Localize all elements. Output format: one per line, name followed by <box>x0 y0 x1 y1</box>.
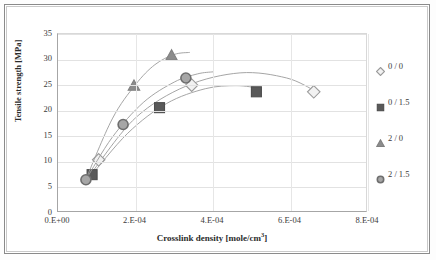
gridline-vertical <box>291 34 292 211</box>
y-axis-tick-label: 5 <box>30 182 52 191</box>
x-axis-tick-label: 0.E+00 <box>29 215 85 225</box>
legend-marker-circle-icon <box>376 170 385 179</box>
gridline-horizontal <box>58 136 366 137</box>
legend-entry[interactable]: 0 / 1.5 <box>376 96 434 108</box>
x-axis-tick-label: 2.E-04 <box>107 215 163 225</box>
y-axis-tick-label: 20 <box>30 105 52 114</box>
chart-legend: 0 / 00 / 1.52 / 02 / 1.5 <box>376 60 434 190</box>
x-axis-title: Crosslink density [mole/cm3] <box>57 231 367 243</box>
y-axis-tick-label: 35 <box>30 29 52 38</box>
legend-entry[interactable]: 0 / 0 <box>376 60 434 72</box>
legend-marker-diamond-icon <box>376 62 385 71</box>
gridline-horizontal <box>58 34 366 35</box>
gridline-horizontal <box>58 162 366 163</box>
y-axis-title: Tensile strength [MPa] <box>13 6 23 156</box>
chart-figure: 05101520253035 Tensile strength [MPa] 0.… <box>0 0 436 260</box>
gridline-vertical <box>136 34 137 211</box>
y-axis-tick-label: 10 <box>30 156 52 165</box>
data-point-marker <box>251 87 261 97</box>
legend-label: 0 / 1.5 <box>388 98 410 107</box>
gridline-vertical <box>368 34 369 211</box>
data-point-marker <box>181 73 191 83</box>
gridline-horizontal <box>58 187 366 188</box>
x-axis-tick-labels: 0.E+002.E-044.E-046.E-048.E-04 <box>0 215 436 229</box>
x-axis-tick-label: 6.E-04 <box>262 215 318 225</box>
x-axis-tick-label: 4.E-04 <box>184 215 240 225</box>
plot-area <box>57 33 367 212</box>
legend-entry[interactable]: 2 / 1.5 <box>376 168 434 180</box>
data-point-marker <box>81 175 91 185</box>
legend-label: 2 / 0 <box>388 134 403 143</box>
x-axis-title-tail: ] <box>264 233 267 243</box>
x-axis-title-base: Crosslink density [mole/cm <box>157 233 261 243</box>
gridline-horizontal <box>58 60 366 61</box>
gridline-horizontal <box>58 111 366 112</box>
legend-entry[interactable]: 2 / 0 <box>376 132 434 144</box>
legend-label: 2 / 1.5 <box>388 170 410 179</box>
legend-label: 0 / 0 <box>388 62 403 71</box>
gridline-vertical <box>213 34 214 211</box>
legend-marker-square-icon <box>376 98 385 107</box>
y-axis-tick-label: 30 <box>30 54 52 63</box>
legend-marker-triangle-icon <box>376 134 385 143</box>
y-axis-tick-label: 25 <box>30 80 52 89</box>
x-axis-tick-label: 8.E-04 <box>339 215 395 225</box>
trend-line <box>89 86 260 179</box>
y-axis-tick-label: 15 <box>30 131 52 140</box>
data-point-marker <box>166 50 178 60</box>
data-point-marker <box>118 120 128 130</box>
gridline-horizontal <box>58 85 366 86</box>
